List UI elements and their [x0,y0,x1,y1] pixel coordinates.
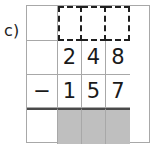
answer-box-tens[interactable] [82,6,106,41]
result-cell-hundreds [58,108,82,144]
answer-row-operator-cell [27,6,58,41]
result-cell-tens [82,108,106,144]
part-label: c) [4,23,19,39]
minuend-digit-hundreds: 2 [58,41,82,75]
result-cell-ones [106,108,130,144]
subtrahend-digit-tens: 5 [82,75,106,108]
minus-operator-cell: − [27,75,58,108]
worksheet-exercise: c) 2 4 8 − 1 5 7 [0,0,161,151]
answer-box-hundreds[interactable] [58,6,82,41]
result-operator-cell [27,108,58,144]
minuend-operator-cell [27,41,58,75]
subtrahend-digit-ones: 7 [106,75,130,108]
answer-box-ones[interactable] [106,6,130,41]
minuend-digit-ones: 8 [106,41,130,75]
subtraction-grid: 2 4 8 − 1 5 7 [26,5,150,143]
subtrahend-digit-hundreds: 1 [58,75,82,108]
minuend-digit-tens: 4 [82,41,106,75]
